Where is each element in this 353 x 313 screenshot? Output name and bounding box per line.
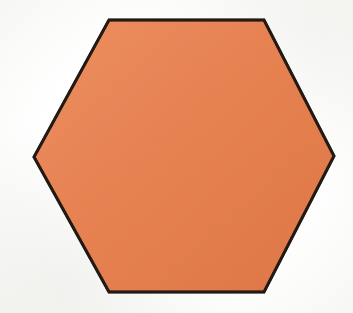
hexagon-grain-texture [0,0,353,313]
hexagon-figure [0,0,353,313]
image-canvas [0,0,353,313]
